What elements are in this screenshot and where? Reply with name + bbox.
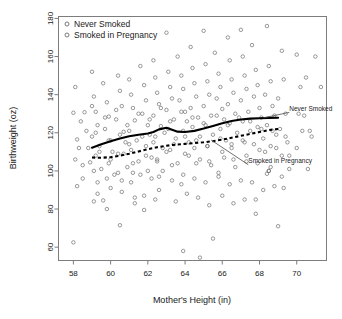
legend-label-never-smoked: Never Smoked xyxy=(74,19,130,29)
y-axis-title: Birthweight (oz) xyxy=(8,107,18,170)
x-tick-label: 68 xyxy=(255,269,264,278)
x-tick-label: 70 xyxy=(292,269,301,278)
birthweight-scatter-figure: 58606264666870 6080100120140160180 Mothe… xyxy=(0,0,342,319)
y-tick-label: 60 xyxy=(46,242,55,251)
y-tick-label: 100 xyxy=(46,164,55,178)
y-tick-label: 180 xyxy=(46,11,55,25)
y-tick-label: 120 xyxy=(46,126,55,140)
x-axis-title: Mother's Height (in) xyxy=(153,295,231,305)
x-tick-label: 66 xyxy=(218,269,227,278)
y-tick-label: 140 xyxy=(46,87,55,101)
x-tick-label: 60 xyxy=(106,269,115,278)
annotation-label-never-smoked: Never Smoked xyxy=(289,105,332,112)
y-tick-label: 160 xyxy=(46,49,55,63)
x-tick-label: 62 xyxy=(143,269,152,278)
scatter-plot-canvas: 58606264666870 6080100120140160180 Mothe… xyxy=(0,0,342,319)
x-tick-label: 58 xyxy=(69,269,78,278)
annotation-label-smoked-in-pregnancy: Smoked in Pregnancy xyxy=(248,157,312,165)
legend-label-smoked-in-pregnancy: Smoked in Pregnancy xyxy=(74,30,158,40)
y-tick-label: 80 xyxy=(46,204,55,213)
x-tick-label: 64 xyxy=(181,269,190,278)
